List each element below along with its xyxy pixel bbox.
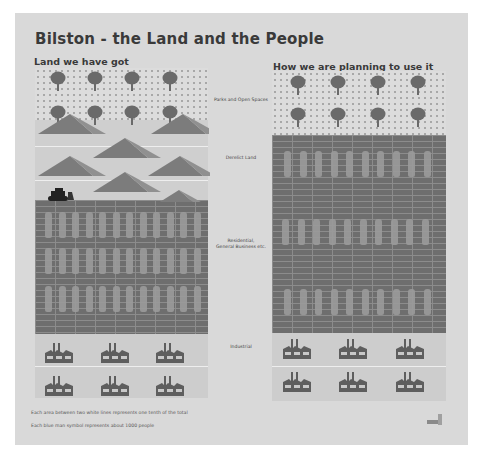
person-icon <box>59 248 66 274</box>
person-icon <box>393 151 400 177</box>
label-derelict: Derelict Land <box>208 155 274 161</box>
person-icon <box>362 289 369 315</box>
person-icon <box>408 289 415 315</box>
tree-icon <box>410 107 426 127</box>
person-icon <box>331 151 338 177</box>
person-icon <box>346 289 353 315</box>
person-icon <box>362 151 369 177</box>
factory-icon <box>156 376 184 396</box>
person-icon <box>140 248 147 274</box>
person-icon <box>393 289 400 315</box>
tree-icon <box>124 105 140 125</box>
tree-icon <box>370 75 386 95</box>
tenth-divider-line <box>272 366 446 367</box>
person-icon <box>408 151 415 177</box>
spoil-heap-icon <box>93 138 161 158</box>
label-residential-line2: General Business etc. <box>208 244 274 250</box>
person-icon <box>86 248 93 274</box>
person-icon <box>406 219 413 245</box>
person-icon <box>377 289 384 315</box>
person-icon <box>360 219 367 245</box>
person-icon <box>126 212 133 238</box>
person-icon <box>99 212 106 238</box>
person-icon <box>86 286 93 312</box>
tree-icon <box>370 107 386 127</box>
left-panel-heading: Land we have got <box>34 56 129 67</box>
person-icon <box>329 219 336 245</box>
person-icon <box>99 248 106 274</box>
person-icon <box>377 151 384 177</box>
left-panel-current-land <box>35 68 208 398</box>
person-icon <box>140 286 147 312</box>
person-icon <box>391 219 398 245</box>
tree-icon <box>410 75 426 95</box>
factory-icon <box>283 372 311 392</box>
person-icon <box>194 212 201 238</box>
label-industrial: Industrial <box>208 344 274 350</box>
factory-icon <box>101 376 129 396</box>
person-icon <box>113 286 120 312</box>
note-man-symbol: Each blue man symbol represents about 10… <box>31 423 154 428</box>
person-icon <box>298 219 305 245</box>
note-white-lines: Each area between two white lines repres… <box>31 410 188 415</box>
person-icon <box>284 289 291 315</box>
factory-icon <box>396 339 424 359</box>
tenth-divider-line <box>35 366 208 367</box>
poster-title: Bilston - the Land and the People <box>35 30 324 48</box>
person-icon <box>346 151 353 177</box>
tree-icon <box>162 71 178 91</box>
factory-icon <box>45 376 73 396</box>
person-icon <box>180 248 187 274</box>
poster-page: Bilston - the Land and the People Land w… <box>15 13 468 445</box>
person-icon <box>422 219 429 245</box>
person-icon <box>113 212 120 238</box>
person-icon <box>167 248 174 274</box>
person-icon <box>72 212 79 238</box>
person-icon <box>140 212 147 238</box>
tree-icon <box>330 107 346 127</box>
person-icon <box>45 248 52 274</box>
person-icon <box>126 248 133 274</box>
bulldozer-icon <box>47 187 75 202</box>
person-icon <box>113 248 120 274</box>
factory-icon <box>283 339 311 359</box>
person-icon <box>59 286 66 312</box>
spoil-heap-icon <box>147 190 215 202</box>
person-icon <box>59 212 66 238</box>
spoil-heap-icon <box>38 114 106 134</box>
person-icon <box>167 286 174 312</box>
label-parks: Parks and Open Spaces <box>208 97 274 103</box>
factory-icon <box>339 372 367 392</box>
tree-icon <box>290 107 306 127</box>
person-icon <box>86 212 93 238</box>
person-icon <box>194 248 201 274</box>
person-icon <box>153 248 160 274</box>
right-panel-planned-land <box>272 71 446 401</box>
factory-icon <box>101 343 129 363</box>
person-icon <box>167 212 174 238</box>
person-icon <box>126 286 133 312</box>
person-icon <box>284 151 291 177</box>
factory-icon <box>339 339 367 359</box>
person-icon <box>72 286 79 312</box>
person-icon <box>282 219 289 245</box>
tree-icon <box>290 75 306 95</box>
spoil-heap-icon <box>93 172 161 192</box>
person-icon <box>424 151 431 177</box>
spoil-heap-icon <box>151 114 209 134</box>
tree-icon <box>124 71 140 91</box>
factory-icon <box>156 343 184 363</box>
person-icon <box>331 289 338 315</box>
tree-icon <box>50 71 66 91</box>
person-icon <box>153 212 160 238</box>
person-icon <box>72 248 79 274</box>
person-icon <box>300 289 307 315</box>
person-icon <box>313 219 320 245</box>
person-icon <box>300 151 307 177</box>
tree-icon <box>87 71 103 91</box>
publisher-mark-icon <box>427 414 445 428</box>
factory-icon <box>45 343 73 363</box>
person-icon <box>375 219 382 245</box>
person-icon <box>315 151 322 177</box>
tree-icon <box>330 75 346 95</box>
